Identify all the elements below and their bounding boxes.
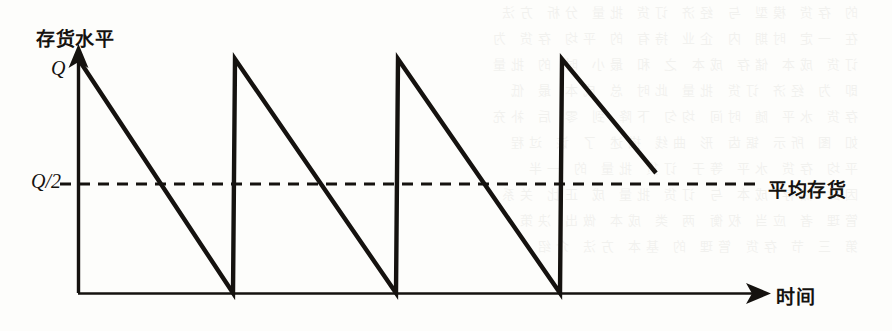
y-axis-title: 存货水平 bbox=[36, 24, 114, 51]
inventory-sawtooth-figure: 的 存货 模型 与 经济 订货 批量 分析 方法 在 一定 时期 内 企业 持有… bbox=[0, 0, 892, 331]
inventory-plot-svg bbox=[0, 0, 892, 331]
y-tick-label-q: Q bbox=[51, 57, 65, 80]
inventory-level-sawtooth-curve bbox=[79, 59, 656, 293]
average-inventory-label: 平均存货 bbox=[768, 175, 846, 202]
y-tick-label-q-half: Q/2 bbox=[31, 170, 61, 193]
x-axis-title: 时间 bbox=[776, 282, 815, 309]
